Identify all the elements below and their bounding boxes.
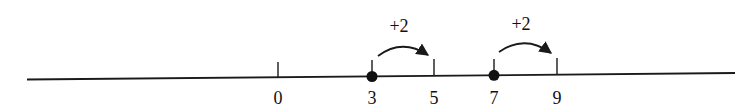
- tick-7: [489, 59, 500, 81]
- tick-label-0: 0: [274, 88, 283, 108]
- tick-label-9: 9: [553, 88, 562, 108]
- number-line-diagram: 0 3 5 7 9 +2 +2: [0, 0, 753, 112]
- jump-label-2: +2: [511, 14, 530, 34]
- jump-arrow-3-to-5: [378, 47, 428, 56]
- point-dot-7: [489, 70, 500, 81]
- number-line-axis: [27, 73, 735, 80]
- tick-label-5: 5: [430, 88, 439, 108]
- tick-label-3: 3: [368, 88, 377, 108]
- tick-3: [367, 60, 378, 82]
- jump-arrow-7-to-9: [499, 43, 551, 53]
- jump-label-1: +2: [389, 16, 408, 36]
- tick-label-7: 7: [490, 88, 499, 108]
- point-dot-3: [367, 71, 378, 82]
